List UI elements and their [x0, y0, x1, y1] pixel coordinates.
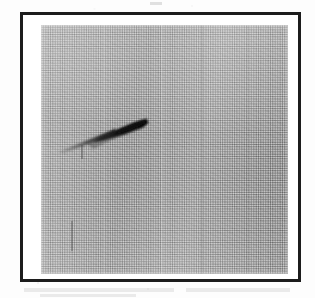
scan-page: [0, 0, 315, 298]
scan-artifact-bottom-right: [186, 288, 290, 292]
photograph-plate: [41, 25, 288, 274]
scan-artifact-bottom-left: [24, 288, 174, 292]
scan-artifact-top: [150, 2, 162, 5]
plate-grain-layer: [41, 25, 288, 274]
photo-frame: [20, 12, 301, 282]
scan-artifact-bottom-lower: [40, 294, 136, 297]
